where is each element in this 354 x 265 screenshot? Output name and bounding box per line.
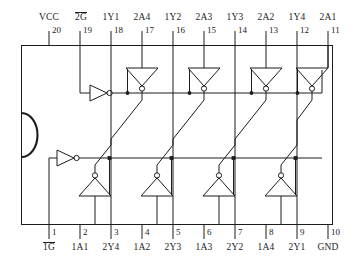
pin-number-8: 8 xyxy=(269,227,274,237)
tristate-buffer-2a1 xyxy=(296,46,328,101)
tristate-buffer-1a2 xyxy=(141,156,173,224)
pin-number-15: 15 xyxy=(207,25,216,35)
pin-label-gnd: GND xyxy=(308,242,348,252)
tristate-buffer-1a1 xyxy=(79,156,111,224)
pin-number-7: 7 xyxy=(238,227,243,237)
pin-number-20: 20 xyxy=(52,25,61,35)
bottom-output-diagonals xyxy=(95,145,297,165)
tristate-buffer-2a4 xyxy=(126,46,158,101)
pin-number-2: 2 xyxy=(83,227,88,237)
pin-number-4: 4 xyxy=(145,227,150,237)
pin-number-5: 5 xyxy=(176,227,181,237)
pin-number-11: 11 xyxy=(331,25,340,35)
pin-number-3: 3 xyxy=(114,227,119,237)
circuit-schematic xyxy=(0,0,354,265)
pin-1-notch xyxy=(22,113,38,157)
pin-number-10: 10 xyxy=(331,227,340,237)
tristate-buffer-1a3 xyxy=(203,156,235,224)
ic-package-outline xyxy=(22,46,333,225)
pin-number-18: 18 xyxy=(114,25,123,35)
enable-net-1g xyxy=(49,158,57,225)
pin-number-6: 6 xyxy=(207,227,212,237)
pin-label-2a1: 2A1 xyxy=(308,12,348,22)
pin-number-14: 14 xyxy=(238,25,247,35)
enable-inverter-2g xyxy=(90,85,112,101)
figure-caption xyxy=(0,258,354,265)
logic-diagram-stage: VCC 20 2G 19 1Y1 18 2A4 17 1Y2 16 2A3 15… xyxy=(0,0,354,265)
pin-number-12: 12 xyxy=(300,25,309,35)
pin-number-13: 13 xyxy=(269,25,278,35)
bottom-pin-stubs xyxy=(49,225,328,240)
tristate-buffer-2a3 xyxy=(188,46,220,101)
top-output-verticals xyxy=(111,120,297,225)
pin-number-19: 19 xyxy=(83,25,92,35)
tristate-buffer-2a2 xyxy=(250,46,282,101)
pin-number-16: 16 xyxy=(176,25,185,35)
pin-number-17: 17 xyxy=(145,25,154,35)
pin-number-9: 9 xyxy=(300,227,305,237)
tristate-buffer-1a4 xyxy=(265,156,297,224)
enable-net-2g xyxy=(80,46,90,94)
pin-number-1: 1 xyxy=(52,227,57,237)
top-output-diagonals xyxy=(111,100,312,139)
enable-inverter-1g xyxy=(57,150,79,166)
